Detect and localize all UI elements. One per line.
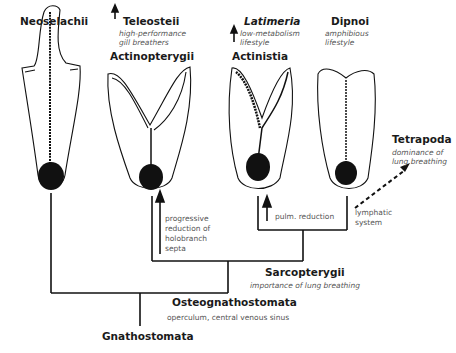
note-tetrapoda-1: dominance of: [392, 148, 443, 157]
label-osteognathostomata: Osteognathostomata: [172, 296, 297, 308]
note-osteognathostomata: operculum, central venous sinus: [167, 313, 289, 322]
note-sarcopterygii: importance of lung breathing: [250, 281, 360, 290]
annot-holobranch-3: holobranch: [165, 234, 207, 243]
annot-holobranch-4: septa: [165, 244, 186, 253]
annot-lymph-2: system: [355, 218, 382, 227]
label-neoselachii: Neoselachii: [20, 15, 88, 27]
annot-pulm: pulm. reduction: [275, 212, 334, 221]
note-dipnoi-2: lifestyle: [325, 38, 354, 47]
gill-neoselachii: [22, 6, 80, 188]
annot-holobranch-1: progressive: [165, 214, 209, 223]
label-sarcopterygii: Sarcopterygii: [265, 266, 345, 278]
annot-holobranch-2: reduction of: [165, 224, 210, 233]
note-teleostei-1: high-performance: [119, 29, 186, 38]
label-dipnoi: Dipnoi: [331, 15, 369, 27]
phylogeny-diagram: Neoselachii Teleosteii high-performance …: [0, 0, 456, 353]
note-latimeria-2: lifestyle: [240, 38, 269, 47]
label-latimeria: Latimeria: [244, 15, 300, 27]
note-dipnoi-1: amphibious: [325, 29, 369, 38]
annot-lymph-1: lymphatic: [355, 208, 392, 217]
label-teleostei: Teleosteii: [123, 15, 179, 27]
note-tetrapoda-2: lung breathing: [392, 157, 447, 166]
label-tetrapoda: Tetrapoda: [392, 133, 452, 145]
label-gnathostomata: Gnathostomata: [102, 330, 194, 342]
note-latimeria-1: low-metabolism: [240, 29, 300, 38]
note-teleostei-2: gill breathers: [119, 38, 169, 47]
label-actinopterygii: Actinopterygii: [110, 50, 194, 62]
label-actinistia: Actinistia: [232, 50, 288, 62]
